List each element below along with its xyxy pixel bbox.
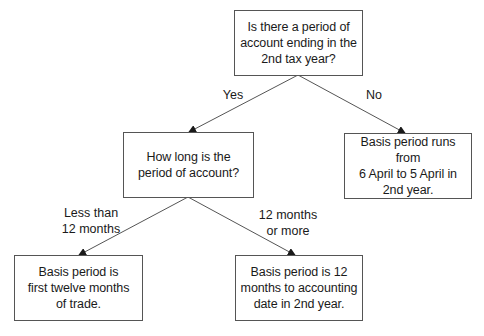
decision-tree-diagram: Is there a period of account ending in t…: [0, 0, 484, 336]
question-period-ending-2nd-tax-year: Is there a period of account ending in t…: [234, 10, 363, 76]
edge-yes-arrow: [189, 75, 298, 132]
edge-label-yes: Yes: [218, 87, 248, 103]
edge-label-less-than-12-months: Less than 12 months: [56, 205, 126, 237]
result-12-months-to-accounting-date: Basis period is 12 months to accounting …: [235, 255, 363, 321]
edge-label-no: No: [362, 87, 386, 103]
result-6-april-to-5-april: Basis period runs from 6 April to 5 Apri…: [344, 133, 472, 199]
result-first-twelve-months: Basis period is first twelve months of t…: [14, 255, 143, 321]
edge-no-arrow: [298, 75, 405, 133]
edge-label-12-months-or-more: 12 months or more: [253, 207, 323, 239]
question-length-of-period: How long is the period of account?: [123, 132, 254, 198]
